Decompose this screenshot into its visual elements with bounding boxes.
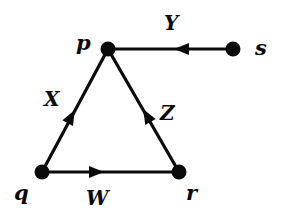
edge-label-Z: Z [159, 101, 176, 125]
node-label-p: p [76, 30, 91, 55]
edge-label-Y: Y [164, 11, 180, 35]
arrowhead-up-left-icon [138, 106, 156, 125]
directed-graph: p s q r X Y Z W [0, 0, 284, 223]
arrowhead-left-icon [174, 43, 189, 55]
edge-label-X: X [42, 87, 61, 111]
node-r [172, 165, 187, 180]
node-p [101, 42, 116, 57]
arrowhead-up-right-icon [62, 107, 80, 126]
node-s [226, 42, 241, 57]
edge-label-W: W [86, 186, 111, 210]
node-q [35, 165, 50, 180]
node-label-r: r [186, 180, 199, 205]
node-label-q: q [14, 180, 29, 205]
node-label-s: s [254, 35, 267, 60]
arrowhead-right-icon [89, 166, 104, 178]
